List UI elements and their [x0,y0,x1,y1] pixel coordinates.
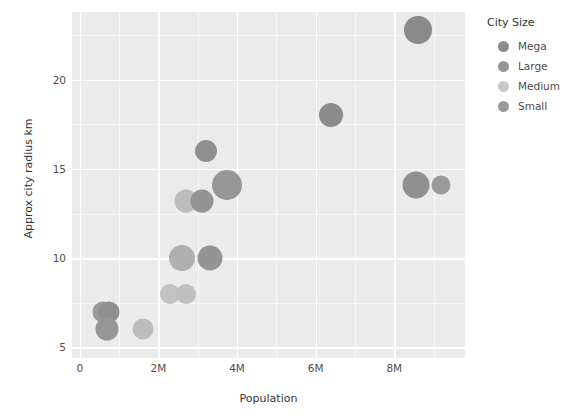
data-point[interactable] [197,246,222,271]
gridline-vertical [80,12,81,358]
data-point[interactable] [176,284,196,304]
x-tick-label: 6M [308,362,324,374]
y-tick-label: 5 [59,341,66,353]
y-tick-label: 10 [53,252,66,264]
legend-swatch-icon [498,101,509,112]
y-axis-title: Approx city radius km [22,69,35,289]
data-point[interactable] [402,172,429,199]
x-tick-label: 0 [77,362,84,374]
gridline-vertical-minor [355,12,356,358]
legend-entry-label: Medium [518,80,560,92]
legend-entry-medium[interactable]: Medium [487,76,583,96]
x-tick-label: 8M [386,362,402,374]
gridline-horizontal [72,169,465,170]
gridline-horizontal-minor [72,303,465,304]
plot-panel [72,12,465,358]
gridline-horizontal [72,347,465,348]
data-point[interactable] [132,319,153,340]
legend-swatch-icon [498,61,509,72]
gridline-vertical [394,12,395,358]
legend-entry-large[interactable]: Large [487,56,583,76]
y-tick-label: 15 [53,163,66,175]
legend-entry-label: Small [518,100,547,112]
legend-swatch-icon [498,81,509,92]
x-tick-label: 2M [151,362,167,374]
data-point[interactable] [96,318,119,341]
gridline-horizontal-minor [72,124,465,125]
data-point[interactable] [195,140,217,162]
legend-title: City Size [487,16,583,29]
gridline-vertical-minor [119,12,120,358]
legend-entry-label: Mega [518,40,547,52]
legend-swatch-icon [498,41,509,52]
x-tick-label: 4M [229,362,245,374]
legend: City Size MegaLargeMediumSmall [487,16,583,116]
data-point[interactable] [190,190,213,213]
legend-entry-small[interactable]: Small [487,96,583,116]
gridline-horizontal [72,258,465,259]
gridline-horizontal-minor [72,214,465,215]
gridline-horizontal [72,80,465,81]
legend-entries: MegaLargeMediumSmall [487,36,583,116]
gridline-vertical-minor [276,12,277,358]
gridline-vertical [316,12,317,358]
data-point[interactable] [212,170,242,200]
data-point[interactable] [319,103,343,127]
data-point[interactable] [169,245,195,271]
data-point[interactable] [404,16,432,44]
legend-entry-label: Large [518,60,548,72]
gridline-vertical [158,12,159,358]
y-tick-label: 20 [53,74,66,86]
gridline-vertical-minor [198,12,199,358]
scatter-chart-figure: 5101520 Approx city radius km 02M4M6M8M … [0,0,586,419]
legend-entry-mega[interactable]: Mega [487,36,583,56]
x-axis-title: Population [72,392,465,405]
data-point[interactable] [432,176,451,195]
